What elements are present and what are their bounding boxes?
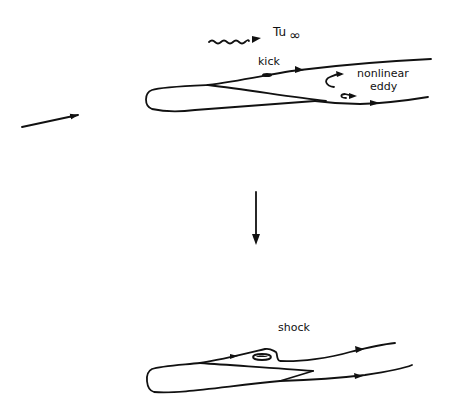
wake-arrowhead — [354, 373, 363, 379]
eddy-label: eddy — [370, 81, 397, 93]
tu-text: Tu — [273, 25, 286, 39]
nonlinear-label: nonlinear — [357, 68, 409, 80]
kick-label: kick — [258, 56, 280, 68]
upper-flow-arrowhead-2 — [355, 346, 364, 353]
tu-label: Tu∞ — [273, 25, 301, 38]
down-arrow-icon — [252, 192, 260, 245]
airfoil-bottom — [147, 343, 412, 392]
turbulence-wave-arrow-icon — [209, 36, 261, 44]
kick-marker — [262, 73, 272, 77]
flow-arrow-icon — [22, 115, 78, 127]
airfoil-flow-diagram — [0, 0, 452, 411]
infinity-subscript: ∞ — [289, 27, 301, 43]
shock-label: shock — [278, 322, 310, 334]
upper-flow-arrowhead — [295, 66, 304, 73]
wake-arrowhead — [370, 100, 380, 106]
